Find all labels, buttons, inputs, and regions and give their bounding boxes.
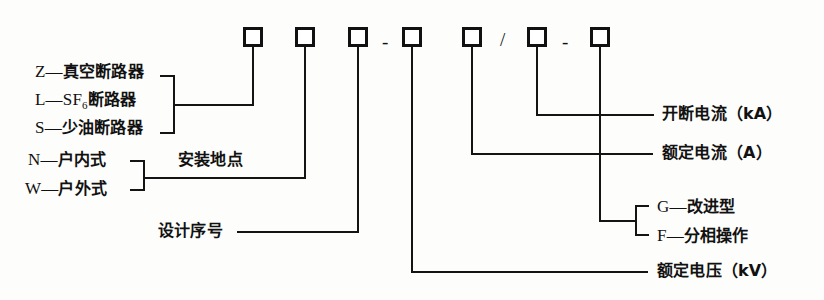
label-breaker-type-oil: S—少油断路器 bbox=[35, 119, 143, 136]
label-rated-voltage: 额定电压（kV） bbox=[657, 263, 778, 279]
bracket-breaker-type-bottom-arm bbox=[160, 132, 175, 134]
leader-slot5-horizontal bbox=[471, 153, 653, 155]
leader-slot5-vertical bbox=[471, 47, 473, 155]
bracket-install-top-arm bbox=[130, 160, 145, 162]
label-install-indoor: N—户内式 bbox=[28, 151, 106, 168]
code-slot-6[interactable] bbox=[527, 27, 547, 47]
leader-slot2-horizontal bbox=[143, 177, 306, 179]
bracket-install-bottom-arm bbox=[130, 189, 145, 191]
bracket-improvement-top-arm bbox=[635, 205, 649, 207]
label-install-outdoor: W—户外式 bbox=[25, 180, 107, 197]
code-slot-1[interactable] bbox=[243, 27, 263, 47]
leader-slot6-vertical bbox=[536, 47, 538, 116]
label-improvement-single-phase: F—分相操作 bbox=[657, 227, 749, 244]
bracket-improvement-bottom-arm bbox=[635, 234, 649, 236]
leader-slot2-vertical bbox=[304, 47, 306, 179]
leader-slot6-horizontal bbox=[536, 114, 654, 116]
code-slot-2[interactable] bbox=[295, 27, 315, 47]
code-slot-3[interactable] bbox=[348, 27, 368, 47]
code-slot-5[interactable] bbox=[462, 27, 482, 47]
label-install-location: 安装地点 bbox=[178, 152, 243, 168]
label-breaker-type-sf6: L—SF6断路器 bbox=[35, 91, 136, 111]
label-rated-current: 额定电流（A） bbox=[662, 145, 772, 161]
label-improvement-upgraded: G—改进型 bbox=[657, 198, 735, 215]
leader-slot7-vertical bbox=[599, 47, 601, 222]
leader-slot1-horizontal bbox=[173, 104, 254, 106]
leader-slot1-vertical bbox=[252, 47, 254, 106]
leader-slot3-horizontal bbox=[237, 231, 359, 233]
label-breaking-current: 开断电流（kA） bbox=[662, 106, 783, 122]
leader-slot3-vertical bbox=[357, 47, 359, 233]
separator-dash-2: - bbox=[562, 32, 568, 51]
label-design-serial: 设计序号 bbox=[158, 223, 223, 239]
leader-slot4-horizontal bbox=[411, 271, 648, 273]
leader-slot4-vertical bbox=[411, 47, 413, 273]
breaker-model-code-diagram: - / - Z—真空断路器 L—SF6断路器 S—少油断路器 安装地点 N—户内… bbox=[0, 0, 824, 300]
bracket-improvement-vertical bbox=[635, 205, 637, 236]
bracket-breaker-type-top-arm bbox=[160, 75, 175, 77]
bracket-install-vertical bbox=[143, 160, 145, 191]
label-breaker-type-vacuum: Z—真空断路器 bbox=[35, 63, 144, 80]
separator-slash: / bbox=[500, 30, 505, 49]
separator-dash-1: - bbox=[382, 32, 388, 51]
bracket-breaker-type-vertical bbox=[173, 75, 175, 134]
code-slot-4[interactable] bbox=[402, 27, 422, 47]
leader-slot7-horizontal bbox=[599, 220, 637, 222]
code-slot-7[interactable] bbox=[590, 27, 610, 47]
